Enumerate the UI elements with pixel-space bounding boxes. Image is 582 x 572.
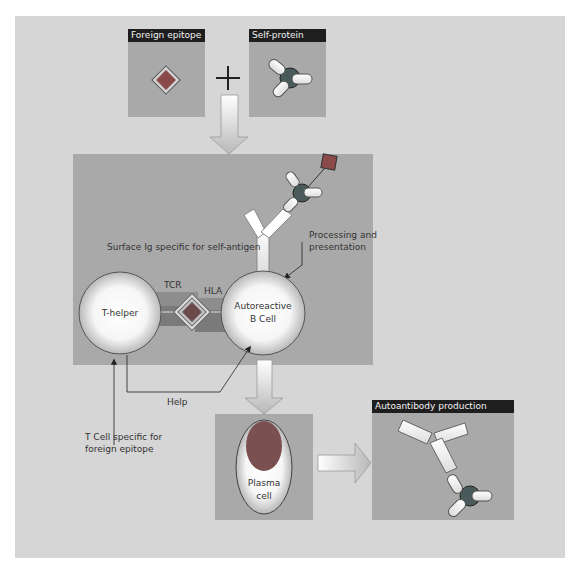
t-helper-label: T-helper bbox=[80, 307, 160, 319]
tcr-label: TCR bbox=[164, 279, 182, 291]
foreign-epitope-panel bbox=[128, 29, 205, 117]
plasma-nucleus bbox=[246, 421, 282, 471]
hla-label: HLA bbox=[204, 285, 222, 297]
surface-ig-label: Surface Ig specific for self-antigen bbox=[107, 241, 260, 253]
processing-label-line2: presentation bbox=[309, 241, 366, 253]
down-arrow-icon bbox=[210, 95, 248, 154]
plus-icon bbox=[216, 66, 240, 90]
tcr-hla-complex bbox=[156, 292, 230, 332]
t-cell-specific-label-line1: T Cell specific for bbox=[85, 431, 162, 443]
foreign-epitope-title: Foreign epitope bbox=[128, 29, 205, 42]
plasma-label-line2: cell bbox=[234, 490, 294, 502]
self-protein-title: Self-protein bbox=[249, 29, 326, 42]
plasma-label-line1: Plasma bbox=[234, 477, 294, 489]
t-cell-specific-label-line2: foreign epitope bbox=[85, 443, 154, 455]
b-cell-label-line1: Autoreactive bbox=[221, 300, 305, 312]
down-arrow-icon bbox=[245, 360, 283, 414]
help-label: Help bbox=[167, 396, 188, 408]
self-protein-panel bbox=[249, 29, 326, 117]
b-cell-label-line2: B Cell bbox=[221, 313, 305, 325]
right-arrow-icon bbox=[318, 443, 371, 483]
processing-label-line1: Processing and bbox=[309, 229, 377, 241]
autoantibody-title: Autoantibody production bbox=[372, 400, 514, 413]
